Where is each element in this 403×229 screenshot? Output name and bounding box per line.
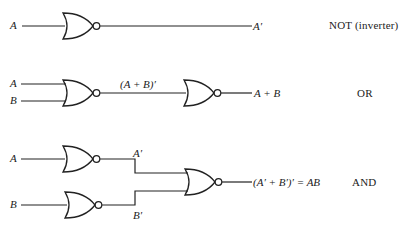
nor-gate-and-a: [63, 146, 100, 172]
output-label: (A′ + B′)′ = AB: [253, 177, 320, 188]
intermediate-label: (A + B)′: [120, 79, 156, 90]
input-a-label: A: [10, 20, 17, 31]
nor-gate-and-b: [65, 192, 102, 218]
not-circuit: [22, 13, 252, 39]
gate-name-not: NOT (inverter): [329, 20, 399, 31]
intermediate-a-label: A′: [133, 148, 142, 159]
nor-gate-or-2: [184, 80, 221, 106]
nor-gate-not: [63, 13, 100, 39]
logic-diagram: [0, 0, 403, 229]
output-label: A + B: [254, 88, 280, 99]
output-label: A′: [253, 21, 262, 32]
nor-gate-or-1: [63, 80, 100, 106]
nor-gate-and-final: [185, 169, 222, 195]
gate-name-or: OR: [357, 88, 373, 99]
input-a-label: A: [10, 153, 17, 164]
gate-name-and: AND: [352, 177, 376, 188]
input-a-label: A: [10, 78, 17, 89]
intermediate-b-label: B′: [133, 210, 142, 221]
input-b-label: B: [10, 199, 17, 210]
input-b-label: B: [10, 95, 17, 106]
